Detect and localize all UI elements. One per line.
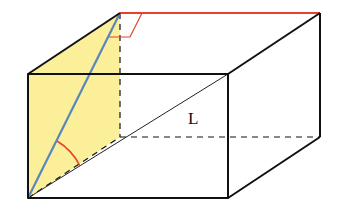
label-L: L	[188, 109, 198, 128]
prism-diagram: L	[0, 0, 341, 209]
